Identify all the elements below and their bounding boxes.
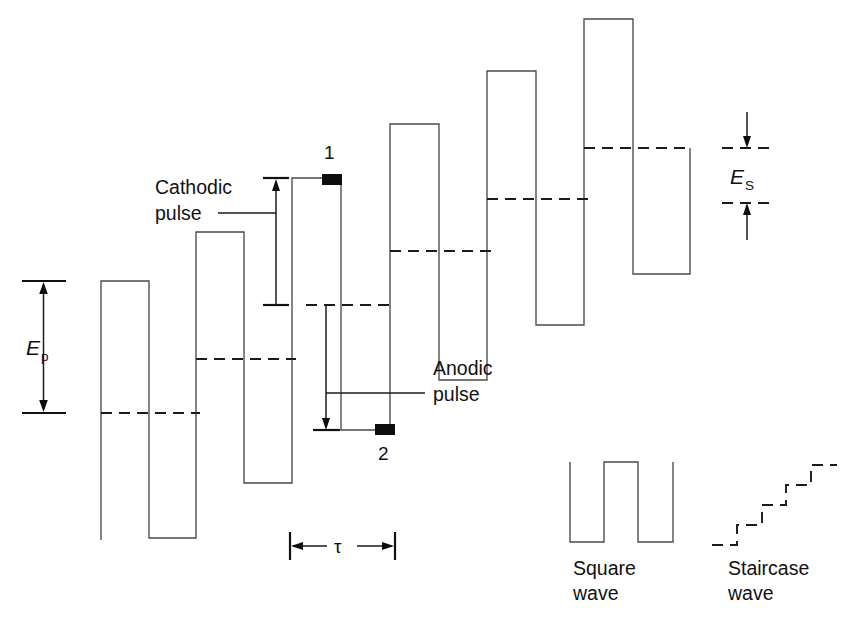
square-wave-path (570, 462, 673, 542)
ep-arrow-head-down (39, 400, 48, 412)
staircase-wave-path (712, 465, 837, 545)
tau-label: τ (334, 536, 342, 557)
ep-arrow-head-up (39, 282, 48, 294)
tau-arrow-head-right (382, 542, 394, 550)
tau-arrow-head-left (291, 542, 303, 550)
sample-marker-2 (375, 424, 395, 435)
excitation-waveform-path (101, 19, 690, 540)
cathodic-pulse-label-line2: pulse (155, 202, 202, 224)
square-wave-label-line1: Square (573, 557, 636, 579)
anodic-pulse-annotation-group: Anodic pulse (313, 306, 493, 430)
cathodic-pulse-label-line1: Cathodic (155, 176, 232, 198)
ep-measurement-group: E p (22, 281, 66, 413)
ep-label: E (26, 336, 41, 359)
es-arrow-head-down (743, 136, 751, 148)
sample-marker-1 (322, 174, 342, 185)
voltammetry-waveform-diagram: E p Cathodic pulse Anodic pulse 1 (0, 0, 857, 626)
cathodic-arrow-head-up (272, 179, 280, 191)
staircase-wave-inset-group: Staircase wave (712, 465, 837, 604)
es-label: E (730, 165, 745, 188)
es-measurement-group: E S (722, 112, 772, 240)
staircase-wave-label-line1: Staircase (728, 557, 809, 579)
cathodic-pulse-annotation-group: Cathodic pulse (155, 176, 289, 305)
sampling-markers-group: 1 2 (322, 142, 395, 464)
square-wave-label-line2: wave (572, 582, 619, 604)
anodic-pulse-label-line1: Anodic (433, 357, 493, 379)
ep-label-subscript: p (41, 349, 49, 364)
main-waveform-group (101, 19, 690, 540)
figure-root: E p Cathodic pulse Anodic pulse 1 (0, 0, 857, 626)
tau-measurement-group: τ (290, 532, 395, 560)
anodic-pulse-label-line2: pulse (433, 383, 480, 405)
sample-point-2-label: 2 (378, 443, 389, 464)
sample-point-1-label: 1 (324, 142, 335, 163)
es-label-subscript: S (745, 178, 754, 193)
anodic-arrow-head-down (322, 418, 330, 430)
staircase-wave-label-line2: wave (727, 582, 774, 604)
es-arrow-head-up (743, 203, 751, 215)
square-wave-inset-group: Square wave (570, 462, 673, 604)
